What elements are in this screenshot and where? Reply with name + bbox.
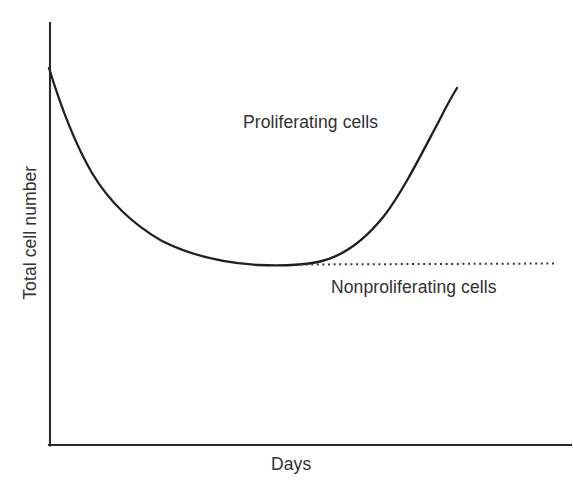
x-axis-label: Days	[271, 456, 311, 474]
proliferating-cells-curve	[49, 68, 457, 265]
cell-growth-chart: Proliferating cells Nonproliferating cel…	[0, 0, 573, 485]
nonproliferating-cells-dotted-line	[300, 264, 556, 265]
nonproliferating-cells-label: Nonproliferating cells	[331, 279, 497, 297]
y-axis-label: Total cell number	[22, 158, 40, 308]
proliferating-cells-label: Proliferating cells	[243, 114, 378, 132]
chart-canvas	[0, 0, 573, 485]
